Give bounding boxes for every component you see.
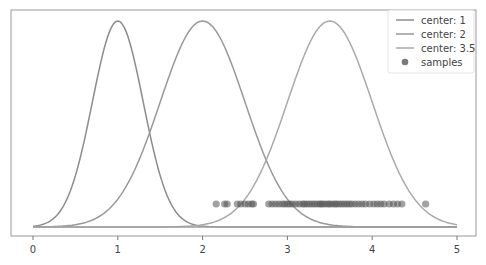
sample-point [224,200,231,207]
sample-point [422,200,429,207]
sample-point [250,200,257,207]
x-axis-ticks: 012345 [30,236,460,255]
legend: center: 1center: 2center: 3.5samples [388,10,475,73]
x-tick-label: 0 [30,244,36,255]
sample-point [213,200,220,207]
x-tick-label: 5 [454,244,460,255]
legend-label: center: 2 [421,29,466,40]
legend-marker-swatch [402,59,409,66]
x-tick-label: 4 [369,244,375,255]
x-tick-label: 3 [284,244,290,255]
legend-label: samples [421,57,463,68]
samples-scatter [213,200,430,207]
legend-label: center: 3.5 [421,43,475,54]
x-tick-label: 1 [115,244,121,255]
legend-label: center: 1 [421,15,466,26]
x-tick-label: 2 [199,244,205,255]
sample-point [398,200,405,207]
chart: 012345 center: 1center: 2center: 3.5samp… [0,0,486,265]
